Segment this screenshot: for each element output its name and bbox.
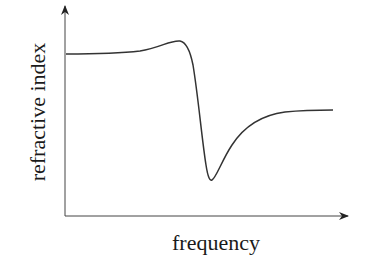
y-axis-label: refractive index [25, 43, 50, 182]
dispersion-curve [66, 41, 333, 180]
x-axis-label: frequency [172, 230, 260, 255]
refractive-index-chart: refractive index frequency [0, 0, 366, 273]
